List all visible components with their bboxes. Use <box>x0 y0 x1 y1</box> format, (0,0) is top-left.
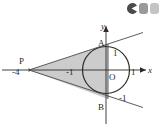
point-label-p: P <box>19 57 24 66</box>
rounded-square-light-icon <box>150 3 159 14</box>
x-tick-label-minus-one: -1 <box>66 68 74 77</box>
geometry-figure <box>0 0 162 130</box>
icon-cluster <box>126 3 159 14</box>
y-tick-label-minus-one: -1 <box>119 94 127 103</box>
origin-label: O <box>109 73 116 82</box>
pacman-icon <box>126 3 137 14</box>
x-tick-label-minus-four: -4 <box>12 68 20 77</box>
x-axis-label: x <box>148 66 152 75</box>
y-axis-label: y <box>101 22 105 31</box>
x-tick-label-one: 1 <box>131 68 136 77</box>
point-label-a: A <box>98 39 105 48</box>
rounded-square-mid-icon <box>139 3 148 14</box>
point-label-b: B <box>98 103 104 112</box>
y-tick-label-one: 1 <box>113 49 118 58</box>
x-axis-arrow-icon <box>140 67 146 73</box>
